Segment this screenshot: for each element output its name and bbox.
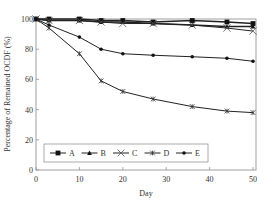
x-tick-label: 30: [162, 175, 170, 184]
legend-label: B: [101, 149, 106, 158]
x-axis-label: Day: [139, 189, 152, 198]
x-tick-label: 20: [119, 175, 127, 184]
legend-label: D: [164, 149, 170, 158]
y-axis-label: Percentage of Remained OCDF (%): [3, 36, 12, 152]
series-E: [34, 17, 255, 63]
x-tick-label: 10: [75, 175, 83, 184]
x-tick-label: 0: [34, 175, 38, 184]
y-tick-label: 80: [25, 45, 33, 54]
legend-label: C: [132, 149, 137, 158]
y-tick-label: 20: [25, 136, 33, 145]
data-series: [32, 15, 256, 115]
legend-label: E: [195, 149, 200, 158]
y-tick-label: 100: [21, 15, 33, 24]
legend-label: A: [69, 149, 75, 158]
x-tick-label: 40: [206, 175, 214, 184]
legend: ABCDE: [44, 144, 208, 162]
series-D: [34, 17, 256, 115]
y-tick-label: 60: [25, 75, 33, 84]
y-tick-label: 0: [29, 166, 33, 175]
y-tick-label: 40: [25, 106, 33, 115]
x-tick-label: 50: [249, 175, 257, 184]
line-chart: 020406080100 01020304050 ABCDE Day Perce…: [0, 0, 274, 206]
x-axis-ticks: 01020304050: [34, 167, 257, 184]
